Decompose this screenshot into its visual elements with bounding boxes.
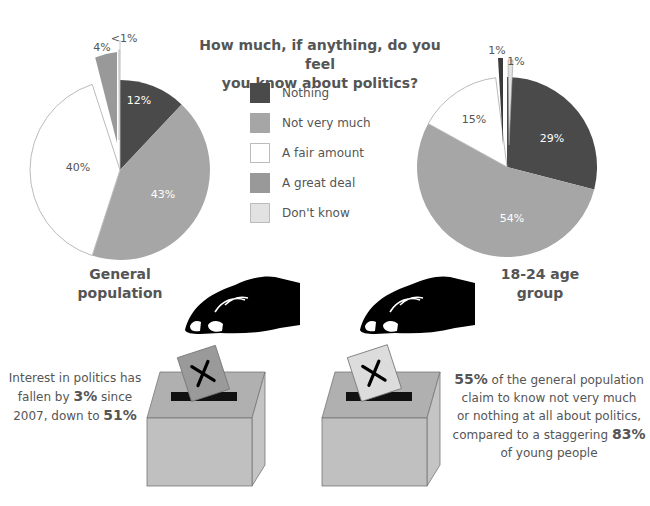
- note-line: of young people: [448, 444, 650, 462]
- note-knowledge-comparison: 55% of the general population claim to k…: [448, 370, 650, 462]
- caption-line: group: [470, 284, 610, 303]
- legend-label: Nothing: [282, 86, 329, 100]
- note-text: since: [97, 390, 132, 404]
- caption-general-population: General population: [50, 265, 190, 303]
- legend-label: A fair amount: [282, 146, 364, 160]
- note-highlight: 3%: [73, 388, 97, 404]
- note-text: fallen by: [18, 390, 74, 404]
- legend-swatch: [250, 203, 270, 223]
- label-left-dont-know: <1%: [111, 32, 138, 45]
- caption-18-24: 18-24 age group: [470, 265, 610, 303]
- legend-swatch: [250, 173, 270, 193]
- note-line: Interest in politics has: [0, 369, 150, 387]
- note-interest-fallen: Interest in politics has fallen by 3% si…: [0, 369, 150, 425]
- title-line-1: How much, if anything, do you feel: [190, 36, 450, 74]
- label-right-great-deal: 1%: [488, 44, 505, 57]
- ballot-box-right: [322, 345, 440, 486]
- hand-icon-left: [185, 276, 300, 334]
- ballot-box-left: [147, 345, 265, 486]
- label-right-not-very-much: 54%: [500, 212, 524, 225]
- label-left-great-deal: 4%: [93, 41, 110, 54]
- note-line: 2007, down to 51%: [0, 406, 150, 425]
- note-highlight: 55%: [454, 371, 488, 387]
- legend-item-fair-amount: A fair amount: [250, 143, 364, 163]
- note-line: or nothing at all about politics,: [448, 407, 650, 425]
- hand-icon-right: [360, 276, 475, 334]
- legend-label: Not very much: [282, 116, 371, 130]
- legend-swatch: [250, 83, 270, 103]
- legend-item-nothing: Nothing: [250, 83, 329, 103]
- caption-line: 18-24 age: [470, 265, 610, 284]
- label-right-nothing: 29%: [540, 132, 564, 145]
- note-highlight: 51%: [103, 407, 137, 423]
- caption-line: General: [50, 265, 190, 284]
- note-line: compared to a staggering 83%: [448, 425, 650, 444]
- legend-swatch: [250, 143, 270, 163]
- note-text: compared to a staggering: [453, 428, 612, 442]
- label-right-dont-know: 1%: [507, 55, 524, 68]
- legend-item-dont-know: Don't know: [250, 203, 350, 223]
- label-left-fair-amount: 40%: [66, 161, 90, 174]
- note-line: claim to know not very much: [448, 389, 650, 407]
- note-highlight: 83%: [612, 426, 646, 442]
- legend-item-not-very-much: Not very much: [250, 113, 371, 133]
- legend-label: Don't know: [282, 206, 350, 220]
- legend-label: A great deal: [282, 176, 355, 190]
- legend-swatch: [250, 113, 270, 133]
- legend-item-great-deal: A great deal: [250, 173, 355, 193]
- pie-general-population: [30, 40, 210, 260]
- label-right-fair-amount: 15%: [462, 113, 486, 126]
- note-text: of the general population: [488, 373, 644, 387]
- label-left-not-very-much: 43%: [151, 188, 175, 201]
- caption-line: population: [50, 284, 190, 303]
- note-line: fallen by 3% since: [0, 387, 150, 406]
- note-line: 55% of the general population: [448, 370, 650, 389]
- note-text: 2007, down to: [13, 409, 103, 423]
- label-left-nothing: 12%: [127, 94, 151, 107]
